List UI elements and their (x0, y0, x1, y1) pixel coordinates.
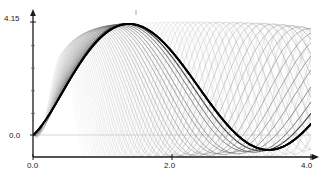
x-axis-tick-label-0: 0.0 (27, 161, 38, 170)
x-axis-arrowhead (312, 154, 319, 160)
y-axis-zero-tick-label: 0.0 (9, 131, 20, 140)
x-axis-tick-label-4: 4.0 (301, 161, 312, 170)
spaghetti-plot-svg (0, 0, 325, 179)
y-axis-top-tick-label: 4.15 (4, 14, 20, 23)
trajectory-curve-group (33, 22, 311, 157)
chart-figure: 4.15 0.0 0.0 2.0 4.0 (0, 0, 325, 179)
x-axis-tick-label-2: 2.0 (164, 161, 175, 170)
y-axis-arrowhead (30, 9, 36, 16)
